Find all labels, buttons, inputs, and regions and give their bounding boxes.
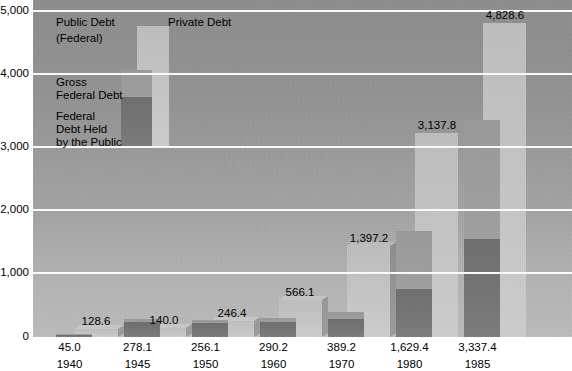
x-tick-1970: 1970: [307, 358, 376, 370]
value-label-gross-1970: 389.2: [307, 341, 376, 353]
value-label-gross-1950: 256.1: [171, 341, 240, 353]
x-tick-1945: 1945: [103, 358, 172, 370]
y-tick-4000: 4,000: [0, 67, 29, 79]
value-label-gross-1960: 290.2: [239, 341, 308, 353]
value-label-private-1940: 128.6: [66, 315, 126, 327]
bar-held-1980: [396, 289, 432, 337]
legend-label-private-debt: Private Debt: [168, 16, 231, 30]
x-tick-1980: 1980: [372, 358, 447, 370]
value-label-private-1980: 3,137.8: [404, 119, 470, 131]
plot-area: Public Debt (Federal) Private Debt Gross…: [33, 0, 572, 337]
value-label-private-1960: 566.1: [270, 286, 330, 298]
value-label-gross-1940: 45.0: [35, 341, 104, 353]
y-tick-2000: 2,000: [0, 203, 29, 215]
y-tick-5000: 5,000: [0, 4, 29, 16]
value-label-gross-1985: 3,337.4: [440, 341, 515, 353]
legend-label-public-debt-line2: (Federal): [56, 32, 103, 46]
bar-held-1985: [464, 239, 500, 337]
value-label-private-1970: 1,397.2: [336, 232, 402, 244]
legend: Public Debt (Federal) Private Debt Gross…: [33, 0, 572, 160]
value-label-gross-1945: 278.1: [103, 341, 172, 353]
value-label-private-1945: 140.0: [134, 314, 194, 326]
y-tick-3000: 3,000: [0, 140, 29, 152]
legend-label-public-debt-line1: Public Debt: [56, 16, 115, 30]
legend-label-gross-line1: Gross: [56, 76, 87, 90]
legend-label-held-line3: by the Public: [56, 136, 122, 150]
value-label-private-1985: 4,828.6: [472, 9, 538, 21]
legend-label-held-line1: Federal: [56, 110, 95, 124]
x-tick-1985: 1985: [440, 358, 515, 370]
legend-label-held-line2: Debt Held: [56, 123, 107, 137]
bar-held-1960: [260, 322, 296, 337]
value-label-private-1950: 246.4: [202, 307, 262, 319]
y-tick-1000: 1,000: [0, 266, 29, 278]
y-axis: 5,000 4,000 3,000 2,000 1,000 0: [0, 0, 33, 371]
y-tick-0: 0: [23, 330, 29, 342]
legend-label-gross-line2: Federal Debt: [56, 89, 122, 103]
x-tick-1960: 1960: [239, 358, 308, 370]
value-label-gross-1980: 1,629.4: [372, 341, 447, 353]
debt-bar-chart: 5,000 4,000 3,000 2,000 1,000 0: [0, 0, 572, 371]
gridline-2000: [33, 209, 572, 211]
bar-held-1950: [192, 323, 228, 337]
bar-held-1970: [328, 319, 364, 337]
bar-held-1940: [56, 335, 92, 337]
x-tick-1950: 1950: [171, 358, 240, 370]
gridline-1000: [33, 272, 572, 274]
x-tick-1940: 1940: [35, 358, 104, 370]
